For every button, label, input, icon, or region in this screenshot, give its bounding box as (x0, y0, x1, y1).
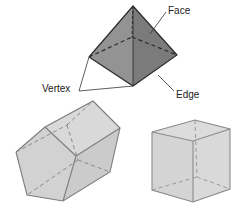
edge-leader (158, 75, 174, 91)
edge-label: Edge (176, 89, 200, 100)
vertex-label: Vertex (42, 83, 70, 94)
face-leader (150, 12, 166, 34)
pentagonal-prism (16, 101, 120, 201)
face-label: Face (168, 5, 191, 16)
solids-diagram: Face Vertex Edge (0, 0, 234, 211)
pyramid (89, 6, 177, 86)
pyramid-left-face (89, 6, 133, 86)
cube (152, 120, 230, 202)
